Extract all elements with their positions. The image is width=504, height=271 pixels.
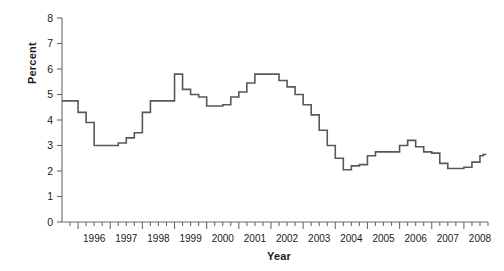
svg-text:2007: 2007 xyxy=(437,233,460,244)
svg-text:1996: 1996 xyxy=(83,233,106,244)
data-series-line xyxy=(62,74,486,170)
svg-text:1999: 1999 xyxy=(179,233,202,244)
line-chart-plot: 012345678 199619971998199920002001200220… xyxy=(0,0,504,271)
svg-text:2008: 2008 xyxy=(469,233,492,244)
svg-text:1998: 1998 xyxy=(147,233,170,244)
svg-text:1: 1 xyxy=(47,190,53,202)
svg-text:2000: 2000 xyxy=(212,233,235,244)
svg-text:7: 7 xyxy=(47,37,53,49)
chart-container: Percent Year 012345678 19961997199819992… xyxy=(0,0,504,271)
svg-text:5: 5 xyxy=(47,88,53,100)
svg-text:2001: 2001 xyxy=(244,233,267,244)
svg-text:6: 6 xyxy=(47,63,53,75)
svg-text:4: 4 xyxy=(47,114,53,126)
svg-text:1997: 1997 xyxy=(115,233,138,244)
x-axis-ticks: 1996199719981999200020012002200320042005… xyxy=(70,222,491,244)
svg-text:8: 8 xyxy=(47,12,53,24)
svg-text:2004: 2004 xyxy=(340,233,363,244)
svg-text:2002: 2002 xyxy=(276,233,299,244)
svg-text:0: 0 xyxy=(47,216,53,228)
svg-text:2005: 2005 xyxy=(372,233,395,244)
y-axis-ticks: 012345678 xyxy=(47,12,62,228)
svg-text:3: 3 xyxy=(47,139,53,151)
svg-text:2: 2 xyxy=(47,165,53,177)
svg-text:2006: 2006 xyxy=(405,233,428,244)
axis-lines xyxy=(62,18,488,222)
svg-text:2003: 2003 xyxy=(308,233,331,244)
